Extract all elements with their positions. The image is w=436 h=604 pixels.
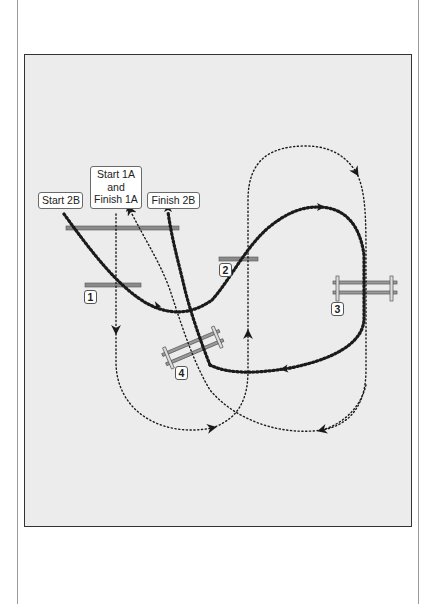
label-start-finish-1a: Start 1A and Finish 1A [90,166,142,209]
obstacle-number-2: 2 [219,263,232,277]
label-start-2b-text: Start 2B [42,194,80,206]
obstacle-number-1: 1 [84,290,97,304]
obstacle-number-4: 4 [175,366,188,380]
pole-1 [85,283,141,287]
fence-4 [160,325,226,370]
label-line-1: Start 1A [94,168,138,181]
pole-2 [219,257,258,261]
obstacle-number-3: 3 [331,302,344,316]
label-finish-2b: Finish 2B [147,192,200,209]
course-diagram [0,0,436,604]
label-line-3: Finish 1A [94,193,138,206]
route-2b [64,207,364,372]
label-finish-2b-text: Finish 2B [152,194,196,206]
route-1a [116,146,366,431]
start-finish-pole [66,226,179,230]
label-line-2: and [94,181,138,194]
label-start-2b: Start 2B [38,192,83,209]
